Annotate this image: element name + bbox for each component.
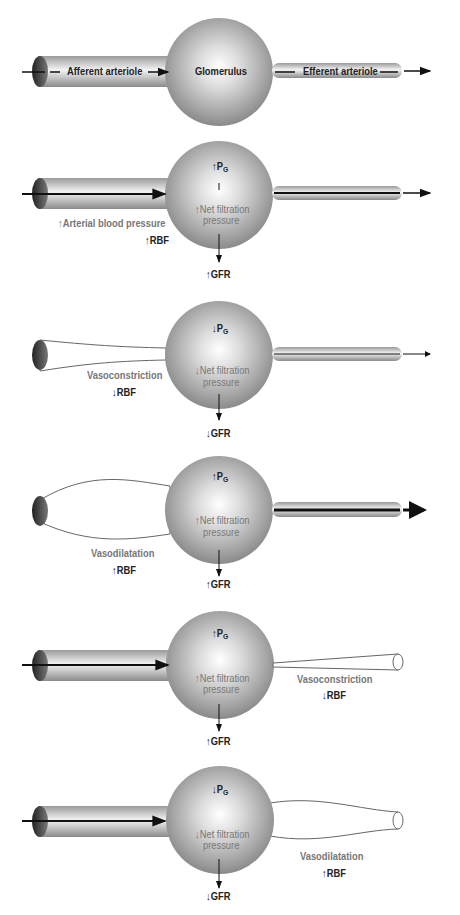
pg-label-4: ↑PG — [212, 627, 228, 641]
nfp-label-2b: pressure — [203, 376, 239, 388]
diagram-canvas — [0, 0, 460, 915]
glomerulus-label: Glomerulus — [195, 65, 247, 77]
gfr-label-1: ↑GFR — [206, 268, 230, 280]
rbf-label-3: ↑RBF — [112, 564, 136, 576]
gfr-label-2: ↓GFR — [206, 427, 230, 439]
nfp-label-5b: pressure — [203, 839, 239, 851]
efferent-arteriole-label: Efferent arteriole — [303, 65, 378, 77]
nfp-label-2a: ↓Net filtration — [195, 364, 250, 376]
nfp-label-1b: pressure — [203, 214, 239, 226]
nfp-label-3a: ↑Net filtration — [195, 514, 250, 526]
gfr-label-5: ↓GFR — [206, 890, 230, 902]
nfp-label-3b: pressure — [203, 526, 239, 538]
pg-label-5: ↓PG — [212, 783, 228, 797]
rbf-label-4: ↓RBF — [322, 689, 346, 701]
condition-label-2: Vasoconstriction — [87, 369, 162, 381]
nfp-label-4b: pressure — [203, 683, 239, 695]
panel-afferent-vasoconstriction — [32, 301, 430, 420]
condition-label-5: Vasodilatation — [300, 850, 363, 862]
afferent-arteriole-label: Afferent arteriole — [67, 65, 142, 77]
condition-label-3: Vasodilatation — [91, 547, 154, 559]
condition-label-1: ↑Arterial blood pressure — [58, 217, 166, 229]
pg-label-2: ↓PG — [212, 322, 228, 336]
gfr-label-4: ↑GFR — [206, 735, 230, 747]
condition-label-4: Vasoconstriction — [297, 673, 372, 685]
rbf-label-2: ↓RBF — [112, 386, 136, 398]
rbf-label-1: ↑RBF — [145, 234, 169, 246]
pg-label-1: ↑PG — [212, 160, 228, 174]
pg-label-3: ↑PG — [212, 470, 228, 484]
rbf-label-5: ↑RBF — [322, 867, 346, 879]
gfr-label-3: ↑GFR — [206, 578, 230, 590]
